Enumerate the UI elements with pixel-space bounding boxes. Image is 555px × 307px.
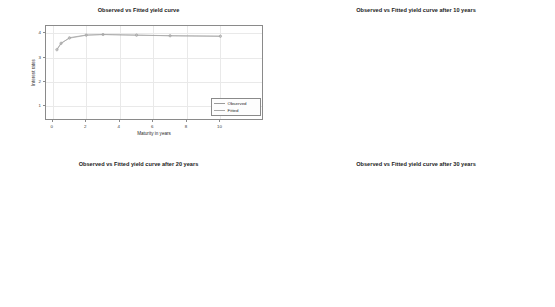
y-axis-tick bbox=[43, 32, 45, 33]
y-axis-tick bbox=[43, 105, 45, 106]
x-axis-tick bbox=[219, 120, 220, 122]
x-axis-tick-label: 2 bbox=[84, 124, 86, 129]
x-axis-tick bbox=[52, 120, 53, 122]
y-axis-label: Interest rates bbox=[31, 50, 36, 94]
chart-panel-30y: Observed vs Fitted yield curve after 30 … bbox=[277, 154, 555, 307]
panel-title: Observed vs Fitted yield curve after 20 … bbox=[0, 161, 277, 167]
y-axis-tick bbox=[43, 81, 45, 82]
series-line-observed bbox=[57, 35, 221, 50]
x-axis-tick bbox=[186, 120, 187, 122]
figure-grid: Observed vs Fitted yield curve 024681012… bbox=[0, 0, 555, 307]
x-axis-tick-label: 8 bbox=[185, 124, 187, 129]
legend-item[interactable]: Observed bbox=[214, 101, 257, 106]
x-axis-label: Maturity in years bbox=[137, 131, 171, 136]
panel-title: Observed vs Fitted yield curve bbox=[0, 7, 277, 13]
series-line-fitted bbox=[57, 35, 221, 50]
x-axis-tick-label: 10 bbox=[217, 124, 222, 129]
chart-legend[interactable]: ObservedFitted bbox=[211, 98, 261, 116]
legend-swatch-line-icon bbox=[214, 110, 225, 111]
y-axis-tick-label: 4 bbox=[31, 30, 41, 35]
legend-swatch-line-icon bbox=[214, 103, 225, 104]
legend-label: Fitted bbox=[228, 108, 239, 113]
panel-title: Observed vs Fitted yield curve after 10 … bbox=[277, 7, 555, 13]
x-axis-tick-label: 6 bbox=[151, 124, 153, 129]
y-axis-tick bbox=[43, 57, 45, 58]
x-axis-tick bbox=[152, 120, 153, 122]
panel-title: Observed vs Fitted yield curve after 30 … bbox=[277, 161, 555, 167]
chart-panel-current: Observed vs Fitted yield curve 024681012… bbox=[0, 0, 277, 154]
x-axis-tick-label: 4 bbox=[118, 124, 120, 129]
x-axis-tick bbox=[119, 120, 120, 122]
x-axis-tick-label: 0 bbox=[50, 124, 52, 129]
y-axis-tick-label: 1 bbox=[31, 103, 41, 108]
legend-item[interactable]: Fitted bbox=[214, 108, 257, 113]
chart-panel-10y: Observed vs Fitted yield curve after 10 … bbox=[277, 0, 555, 154]
x-axis-tick bbox=[85, 120, 86, 122]
legend-label: Observed bbox=[228, 101, 247, 106]
chart-panel-20y: Observed vs Fitted yield curve after 20 … bbox=[0, 154, 277, 307]
